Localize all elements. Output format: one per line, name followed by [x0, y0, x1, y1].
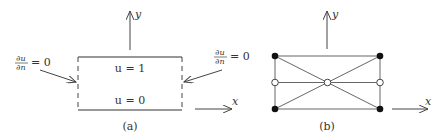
svg-text:∂n: ∂n — [215, 57, 224, 66]
node-filled — [377, 106, 384, 113]
left-bc-arrow — [40, 70, 76, 82]
panel-a: y u = 1 u = 0 ∂u ∂n = 0 ∂u ∂n = 0 x (a) — [15, 8, 250, 133]
top-condition-label: u = 1 — [115, 62, 145, 75]
node-filled — [272, 106, 279, 113]
bottom-condition-label: u = 0 — [115, 94, 145, 107]
x-axis-label-b: x — [425, 95, 432, 108]
svg-text:= 0: = 0 — [31, 56, 51, 69]
svg-text:= 0: = 0 — [230, 50, 250, 63]
left-neumann-label: ∂u ∂n = 0 — [15, 54, 51, 72]
y-axis-label-b: y — [331, 8, 339, 21]
node-filled — [377, 53, 384, 60]
right-neumann-label: ∂u ∂n = 0 — [214, 48, 250, 66]
right-bc-arrow — [184, 70, 222, 82]
svg-text:∂u: ∂u — [215, 48, 224, 57]
figure: y u = 1 u = 0 ∂u ∂n = 0 ∂u ∂n = 0 x (a) — [0, 0, 442, 137]
y-axis-label-a: y — [134, 8, 142, 21]
node-open — [324, 79, 331, 86]
caption-a: (a) — [122, 120, 137, 133]
caption-b: (b) — [319, 120, 335, 133]
svg-text:∂u: ∂u — [16, 54, 25, 63]
panel-b: y x (b) — [272, 8, 432, 133]
node-filled — [272, 53, 279, 60]
node-open — [377, 79, 384, 86]
svg-text:∂n: ∂n — [16, 63, 25, 72]
x-axis-label-a: x — [232, 95, 239, 108]
node-open — [272, 79, 279, 86]
